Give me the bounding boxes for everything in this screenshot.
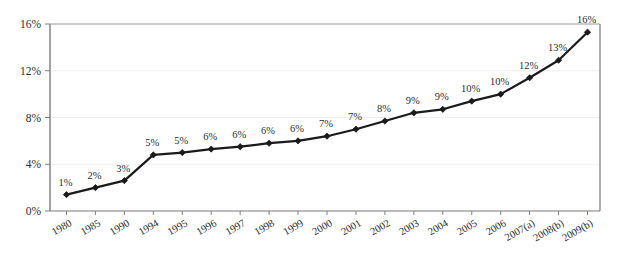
data-point-label: 5% [145,137,159,148]
y-axis-tick-label: 4% [26,158,42,170]
data-point-label: 10% [461,83,481,94]
data-point-label: 6% [290,123,304,134]
data-point-label: 1% [58,177,72,188]
x-axis-category-label: 2003 [397,217,421,237]
x-axis-category-label: 1994 [137,217,161,237]
chart-canvas: 0%4%8%12%16% 1%2%3%5%5%6%6%6%6%7%7%8%9%9… [0,0,625,265]
data-point-label: 7% [319,118,333,129]
data-point-label: 3% [116,163,130,174]
x-axis-category-label: 2009(b) [560,217,595,244]
x-axis-category-label: 2007(a) [503,217,538,244]
x-axis-category-label: 2002 [368,217,392,237]
x-axis-category-label: 1998 [252,217,276,237]
line-chart: 0%4%8%12%16% 1%2%3%5%5%6%6%6%6%7%7%8%9%9… [0,0,625,265]
y-axis-tick-label: 0% [26,205,42,217]
x-axis-category-label: 1999 [281,217,305,237]
x-axis-category-label: 1996 [195,217,219,237]
data-point-label: 9% [406,95,420,106]
x-axis-category-label: 2008(b) [531,217,566,244]
x-axis-category-label: 2004 [426,217,450,237]
x-axis-category-label: 2005 [455,217,479,237]
data-point-label: 5% [174,135,188,146]
y-axis-tick-label: 12% [20,65,42,77]
data-point-label: 12% [519,60,539,71]
x-axis-category-label: 2001 [339,217,363,237]
x-axis-labels: 1980198519901994199519961997199819992000… [50,217,596,244]
x-axis-category-label: 1990 [108,217,132,237]
data-point-label: 2% [87,170,101,181]
y-axis-tick-label: 8% [26,112,42,124]
data-point-label: 6% [261,125,275,136]
x-axis-category-label: 2000 [310,217,334,237]
y-axis: 0%4%8%12%16% [20,18,50,217]
data-point-label: 9% [435,91,449,102]
x-axis-category-label: 1997 [223,217,247,237]
data-point-label: 6% [203,131,217,142]
y-axis-tick-label: 16% [20,18,42,30]
data-point-label: 13% [548,42,568,53]
data-point-label: 10% [490,76,510,87]
data-point-label: 6% [232,129,246,140]
x-axis-category-label: 1995 [166,217,190,237]
x-axis-ticks [66,211,587,215]
data-point-label: 7% [348,111,362,122]
x-axis-category-label: 1980 [50,217,74,237]
x-axis-category-label: 1985 [79,217,103,237]
data-point-label: 16% [577,14,597,25]
data-point-label: 8% [377,103,391,114]
